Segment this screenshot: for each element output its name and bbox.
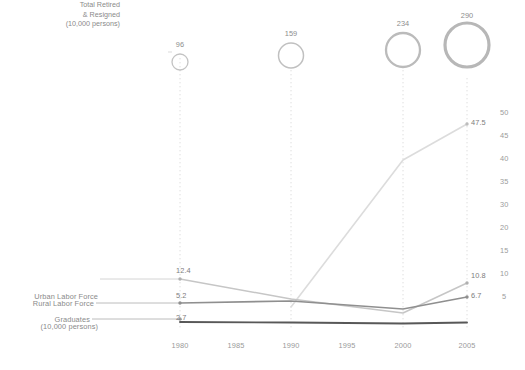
bubble-value-2000: 234 bbox=[389, 19, 417, 29]
point-urban-1980 bbox=[178, 277, 181, 280]
series-line-total-retired bbox=[291, 124, 467, 307]
point-rural-2005 bbox=[465, 295, 468, 298]
xtick-1985: 1985 bbox=[222, 341, 250, 351]
ytick-50: 50 bbox=[500, 108, 508, 118]
value-label-urban-1980: 12.4 bbox=[176, 266, 191, 276]
bubble-2000 bbox=[386, 33, 420, 67]
ytick-5: 5 bbox=[502, 292, 506, 302]
xtick-1980: 1980 bbox=[166, 341, 194, 351]
bubble-value-1980: 96 bbox=[166, 40, 194, 50]
bubble-group bbox=[172, 23, 489, 70]
ytick-30: 30 bbox=[500, 200, 508, 210]
series-label-urban-labor-force: Urban Labor Force (10,000 persons) bbox=[0, 272, 98, 352]
value-label-rural-1980: 5.2 bbox=[176, 291, 187, 301]
bubble-value-1990: 159 bbox=[277, 29, 305, 39]
bubble-1990 bbox=[279, 43, 304, 68]
value-label-urban-2005: 10.8 bbox=[471, 271, 486, 281]
value-label-total-retired-2005: 47.5 bbox=[471, 118, 486, 128]
gridlines bbox=[180, 58, 467, 330]
series-line-urban-labor-force bbox=[180, 279, 467, 313]
data-point-markers bbox=[178, 122, 468, 320]
ytick-10: 10 bbox=[500, 269, 508, 279]
series-label-graduates: Graduates bbox=[0, 315, 90, 325]
point-urban-2005 bbox=[465, 281, 468, 284]
xtick-1990: 1990 bbox=[277, 341, 305, 351]
bubble-value-2005: 290 bbox=[453, 11, 481, 21]
bubble-2005 bbox=[445, 23, 489, 67]
xtick-2005: 2005 bbox=[453, 341, 481, 351]
xtick-2000: 2000 bbox=[389, 341, 417, 351]
xtick-1995: 1995 bbox=[333, 341, 361, 351]
ytick-40: 40 bbox=[500, 154, 508, 164]
series-label-rural-labor-force: Rural Labor Force bbox=[0, 299, 94, 309]
value-label-graduates-1980: 2.7 bbox=[176, 313, 187, 323]
value-label-rural-2005: 6.7 bbox=[471, 291, 482, 301]
ytick-45: 45 bbox=[500, 131, 508, 141]
ytick-20: 20 bbox=[500, 223, 508, 233]
series-line-graduates bbox=[180, 322, 467, 324]
ytick-15: 15 bbox=[500, 246, 508, 256]
ytick-35: 35 bbox=[500, 177, 508, 187]
point-total-retired-2005 bbox=[465, 122, 468, 125]
point-rural-1980 bbox=[178, 301, 181, 304]
chart-container: Total Retired & Resigned (10,000 persons… bbox=[0, 0, 525, 370]
